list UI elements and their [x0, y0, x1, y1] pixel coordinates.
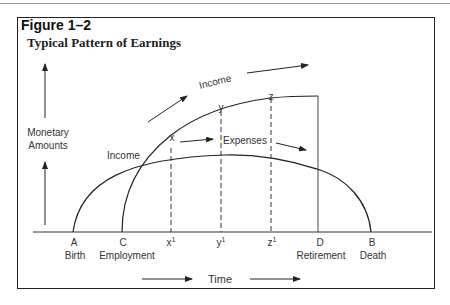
expenses-curve [73, 155, 371, 232]
caption-birth: Birth [65, 250, 86, 261]
expenses-arrow-1 [180, 139, 213, 142]
caption-retirement: Retirement [297, 250, 346, 261]
income-arrow-2 [247, 65, 308, 73]
income-arrow-label: Income [198, 72, 233, 91]
x-point-b: B [369, 237, 376, 248]
x-point-c: C [119, 237, 126, 248]
caption-employment: Employment [99, 250, 155, 261]
income-arrow-1 [148, 96, 187, 122]
income-side-label: Income [107, 150, 140, 161]
earnings-diagram: Monetary Amounts x y z Income Income Exp… [0, 0, 450, 305]
point-x-label: x [170, 132, 175, 143]
point-y-label: y [219, 102, 224, 113]
x-point-x1: x1 [167, 236, 176, 248]
x-point-z1: z1 [268, 236, 277, 248]
y-label-line1: Monetary [27, 127, 69, 138]
x-point-y1: y1 [217, 236, 226, 248]
expenses-arrow-2 [276, 143, 306, 150]
x-point-y1-sup: 1 [222, 236, 226, 243]
time-label: Time [208, 273, 232, 285]
x-point-d: D [316, 237, 323, 248]
expenses-label: Expenses [223, 135, 267, 146]
x-point-x1-sup: 1 [172, 236, 176, 243]
x-point-a: A [71, 237, 78, 248]
x-point-z1-sup: 1 [273, 236, 277, 243]
point-z-label: z [269, 91, 274, 102]
y-label-line2: Amounts [28, 140, 67, 151]
income-curve [122, 96, 318, 232]
caption-death: Death [360, 250, 387, 261]
